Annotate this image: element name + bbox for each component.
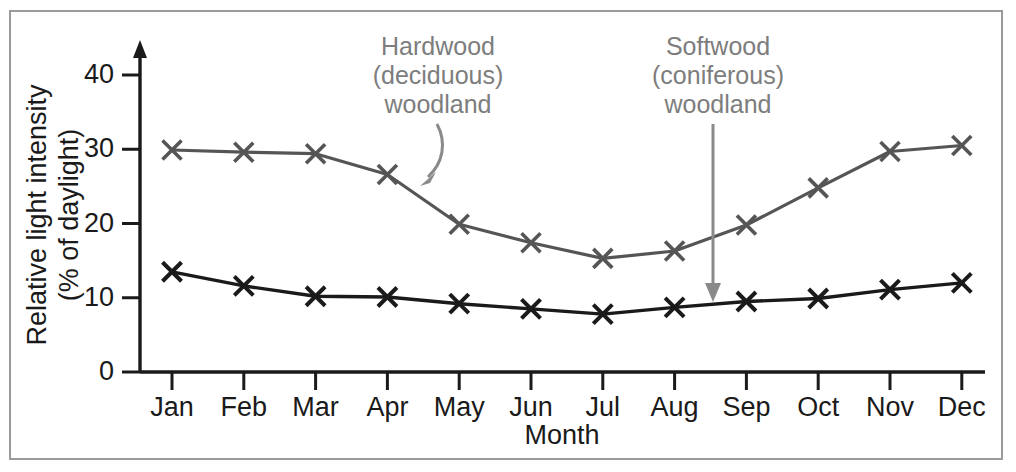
y-axis-title-line2: (% of daylight) xyxy=(54,129,84,302)
x-tick-label-group: JanFebMarAprMayJunJulAugSepOctNovDec xyxy=(150,392,986,422)
y-tick-label-group: 010203040 xyxy=(84,59,114,386)
y-axis-arrowhead xyxy=(133,40,147,58)
y-tick-label-0: 0 xyxy=(99,356,114,386)
x-tick-label-jun: Jun xyxy=(509,392,553,422)
series-line xyxy=(172,272,962,314)
figure-container: 010203040 JanFebMarAprMayJunJulAugSepOct… xyxy=(0,0,1016,472)
annotation-softwood-line3: woodland xyxy=(663,90,771,118)
x-tick-label-apr: Apr xyxy=(366,392,408,422)
line-chart: 010203040 JanFebMarAprMayJunJulAugSepOct… xyxy=(0,0,1016,472)
y-axis-title: Relative light intensity (% of daylight) xyxy=(22,84,84,346)
annotation-softwood: Softwood (coniferous) woodland xyxy=(652,32,784,302)
annotation-hardwood: Hardwood (deciduous) woodland xyxy=(373,32,504,186)
data-point-marker xyxy=(809,178,828,197)
x-tick-label-oct: Oct xyxy=(797,392,840,422)
y-axis xyxy=(133,40,147,372)
x-tick-label-may: May xyxy=(434,392,486,422)
x-tick-label-dec: Dec xyxy=(938,392,986,422)
data-point-marker xyxy=(378,165,397,184)
annotation-hardwood-arrow xyxy=(428,124,443,177)
annotation-softwood-arrowhead xyxy=(705,283,721,302)
x-tick-label-mar: Mar xyxy=(292,392,339,422)
y-axis-title-line1: Relative light intensity xyxy=(22,84,52,346)
series-softwood xyxy=(163,262,972,323)
data-point-marker xyxy=(450,215,469,234)
annotation-hardwood-line1: Hardwood xyxy=(381,32,495,60)
x-axis-title: Month xyxy=(524,420,599,450)
annotation-softwood-line2: (coniferous) xyxy=(652,61,784,89)
annotation-hardwood-arrowhead xyxy=(420,172,436,186)
x-tick-label-sep: Sep xyxy=(722,392,770,422)
series-hardwood xyxy=(163,136,972,268)
y-tick-label-30: 30 xyxy=(84,133,114,163)
series-line xyxy=(172,146,962,259)
y-tick-group xyxy=(122,75,140,372)
annotation-hardwood-line2: (deciduous) xyxy=(373,61,504,89)
x-tick-label-feb: Feb xyxy=(221,392,268,422)
y-tick-label-20: 20 xyxy=(84,208,114,238)
data-point-marker xyxy=(737,215,756,234)
x-tick-label-nov: Nov xyxy=(866,392,915,422)
annotation-softwood-line1: Softwood xyxy=(666,32,770,60)
x-tick-label-jul: Jul xyxy=(586,392,621,422)
x-tick-label-jan: Jan xyxy=(150,392,194,422)
x-tick-group xyxy=(172,372,962,390)
annotation-hardwood-line3: woodland xyxy=(383,90,491,118)
y-tick-label-10: 10 xyxy=(84,282,114,312)
y-tick-label-40: 40 xyxy=(84,59,114,89)
series-group xyxy=(163,136,972,324)
x-tick-label-aug: Aug xyxy=(651,392,699,422)
